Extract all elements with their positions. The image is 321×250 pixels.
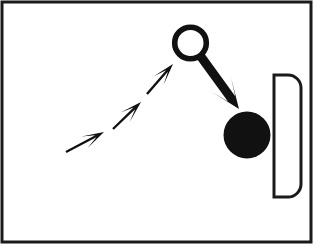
d-shape-outline xyxy=(274,75,301,197)
diagram-canvas: Black and white schematic: three small a… xyxy=(0,0,321,250)
diagram-svg xyxy=(0,0,321,250)
filled-target-dot xyxy=(224,112,271,159)
